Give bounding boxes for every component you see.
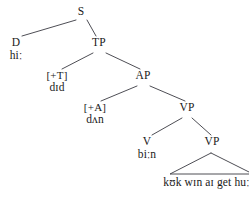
node-tp-label: TP	[92, 37, 106, 49]
node-a-feature: [+A] dʌn	[84, 102, 106, 126]
node-d-label: D	[10, 37, 22, 49]
node-vp-upper-label: VP	[179, 102, 194, 114]
node-t-feature: [+T] dɪd	[46, 70, 67, 94]
node-vp-upper: VP	[179, 102, 194, 114]
edge-ap-to-a	[101, 86, 137, 101]
terminal-v: biːn	[138, 149, 156, 161]
syntax-tree-diagram: S D hiː TP [+T] dɪd AP [+A] dʌn VP V biː…	[0, 0, 249, 199]
edge-vp-to-vp-lower	[192, 118, 211, 135]
triangle-vp-phrase	[170, 153, 249, 174]
node-s-label: S	[78, 6, 85, 18]
edge-s-to-d	[22, 20, 76, 36]
edge-s-to-tp	[87, 20, 96, 36]
terminal-t-feature: dɪd	[46, 82, 67, 94]
node-a-feature-label: [+A]	[84, 102, 106, 113]
node-ap: AP	[135, 70, 150, 82]
node-s: S	[78, 6, 85, 18]
node-ap-label: AP	[135, 70, 150, 82]
terminal-a-feature: dʌn	[84, 114, 106, 126]
node-v: V biːn	[138, 136, 156, 160]
node-d: D hiː	[10, 37, 22, 61]
edge-vp-to-v	[152, 118, 182, 135]
edge-tp-to-ap	[106, 53, 140, 69]
edge-tp-to-t	[62, 53, 93, 69]
terminal-d: hiː	[10, 50, 22, 62]
terminal-vp-phrase: kʊk wɪn aɪ get huːm	[163, 176, 249, 188]
node-tp: TP	[92, 37, 106, 49]
node-v-label: V	[138, 136, 156, 148]
tree-branch-lines	[0, 0, 249, 199]
edge-ap-to-vp-upper	[150, 86, 185, 101]
node-vp-lower-label: VP	[204, 136, 219, 148]
node-vp-lower: VP	[204, 136, 219, 148]
node-t-feature-label: [+T]	[46, 70, 67, 81]
